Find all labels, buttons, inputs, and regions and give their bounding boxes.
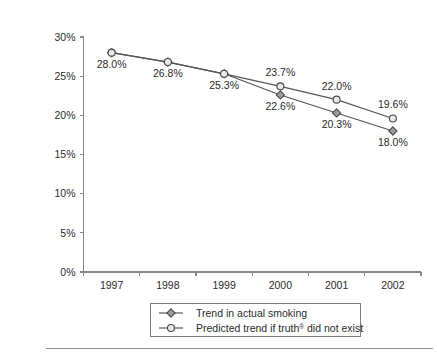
marker-predicted <box>277 83 284 90</box>
y-tick-label: 0% <box>60 266 75 278</box>
legend-marker-predicted <box>168 325 175 332</box>
point-label: 23.7% <box>265 66 295 78</box>
legend-item-label: Trend in actual smoking <box>196 307 307 319</box>
x-tick-label: 1997 <box>100 279 124 291</box>
marker-predicted <box>164 59 171 66</box>
marker-actual <box>389 127 397 135</box>
point-label: 22.0% <box>322 80 352 92</box>
data-point-labels: 28.0%26.8%25.3%22.6%20.3%18.0%23.7%22.0%… <box>97 58 408 148</box>
legend-label-text: Predicted trend if truth <box>196 322 299 334</box>
point-label: 25.3% <box>209 79 239 91</box>
marker-actual <box>276 91 284 99</box>
legend-item-label: Predicted trend if truth® did not exist <box>196 322 363 334</box>
chart-legend: Trend in actual smokingPredicted trend i… <box>151 304 364 337</box>
marker-predicted <box>221 70 228 77</box>
y-tick-label: 30% <box>54 31 75 43</box>
marker-predicted <box>108 49 115 56</box>
x-tick-label: 2002 <box>381 279 405 291</box>
series-markers <box>108 49 397 136</box>
y-tick-label: 5% <box>60 227 75 239</box>
y-tick-label: 20% <box>54 109 75 121</box>
point-label: 20.3% <box>322 118 352 130</box>
marker-actual <box>333 109 341 117</box>
y-tick-label: 25% <box>54 70 75 82</box>
point-label: 19.6% <box>378 98 408 110</box>
x-axis: 199719981999200020012002 <box>84 272 422 291</box>
legend-label-text-tail: did not exist <box>304 322 363 334</box>
legend-label-text: Trend in actual smoking <box>196 307 307 319</box>
marker-predicted <box>389 115 396 122</box>
x-tick-label: 1998 <box>156 279 180 291</box>
chart-canvas: 30%25%20%15%10%5%0% 19971998199920002001… <box>40 16 437 353</box>
y-axis: 30%25%20%15%10%5%0% <box>54 31 83 278</box>
x-tick-label: 2001 <box>325 279 349 291</box>
point-label: 22.6% <box>265 100 295 112</box>
x-tick-label: 1999 <box>212 279 236 291</box>
point-label: 26.8% <box>153 67 183 79</box>
x-tick-label: 2000 <box>269 279 293 291</box>
marker-predicted <box>333 96 340 103</box>
y-tick-label: 15% <box>54 148 75 160</box>
line-chart-figure: 30%25%20%15%10%5%0% 19971998199920002001… <box>40 16 437 353</box>
y-tick-label: 10% <box>54 187 75 199</box>
point-label: 18.0% <box>378 136 408 148</box>
point-label: 28.0% <box>97 58 127 70</box>
